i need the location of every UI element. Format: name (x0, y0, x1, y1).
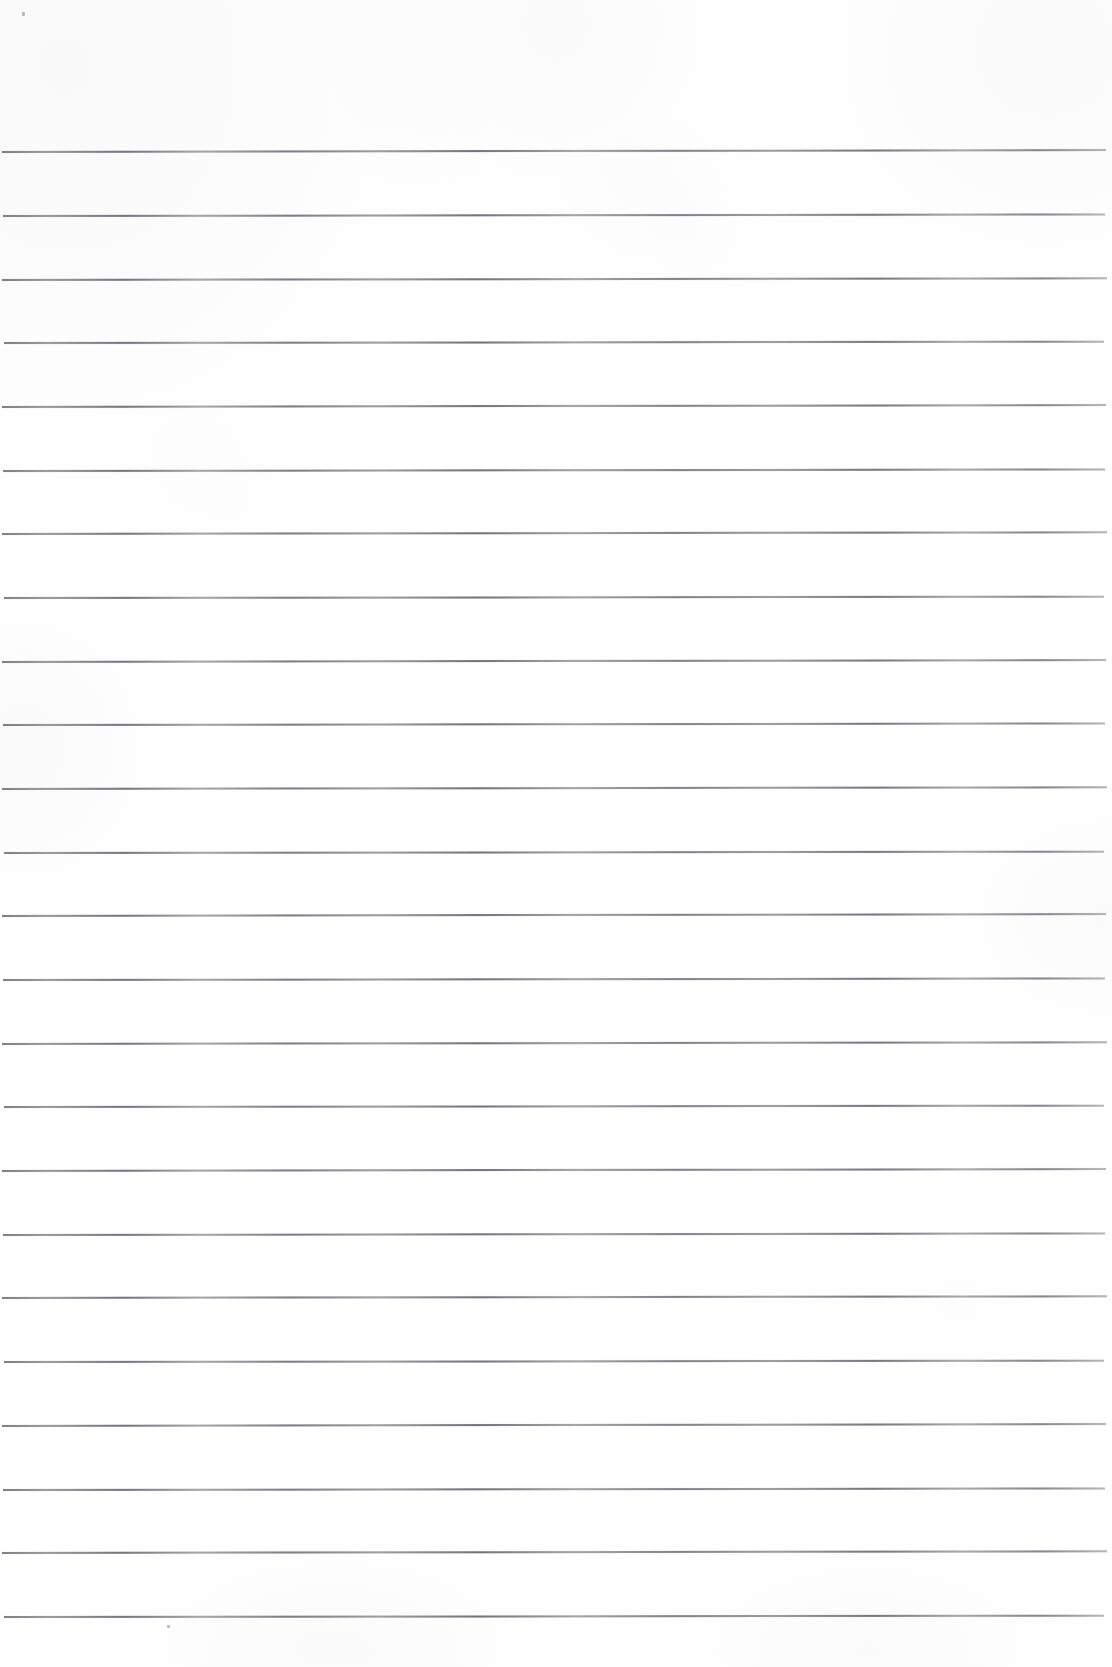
rule-line-ink (4, 1360, 1104, 1363)
rule-line-ink (2, 913, 1106, 917)
rule-line (2, 1168, 1106, 1172)
rule-line (3, 213, 1105, 217)
rule-line-blur (2, 1549, 1107, 1555)
rule-line (3, 1232, 1105, 1236)
rule-line-ink (2, 277, 1107, 281)
rule-line-ink (4, 1105, 1104, 1108)
rule-line-ink (2, 1550, 1107, 1554)
rule-line-ink (2, 149, 1106, 153)
rule-line (3, 722, 1105, 726)
rule-line (2, 786, 1107, 790)
rule-line-ink (3, 1232, 1105, 1236)
rule-line-blur (2, 403, 1106, 409)
rule-line-blur (2, 912, 1106, 918)
scanned-page (0, 0, 1112, 1667)
rule-line-blur (4, 595, 1104, 600)
rule-line-blur (4, 850, 1104, 855)
speck-bottom-mid (167, 1625, 170, 1628)
rule-line-blur (3, 721, 1105, 727)
speck-top-left (22, 12, 25, 16)
rule-line-ink (4, 596, 1104, 599)
rule-line (2, 1041, 1107, 1045)
rule-line-blur (4, 340, 1104, 345)
rule-line-blur (3, 212, 1105, 218)
rule-line-ink (2, 404, 1106, 408)
rule-line-blur (2, 1040, 1107, 1046)
rule-line-ink (2, 1423, 1106, 1427)
rule-line-blur (2, 148, 1106, 154)
rule-line (4, 1360, 1104, 1363)
rule-line-ink (3, 213, 1105, 217)
rule-line (2, 1295, 1107, 1299)
rule-line-ink (4, 341, 1104, 344)
rule-line (2, 531, 1107, 535)
paper-texture (0, 0, 1112, 1667)
rule-line-blur (2, 1167, 1106, 1173)
rule-line (3, 977, 1105, 981)
rule-line-blur (2, 530, 1107, 536)
rule-line-ink (3, 722, 1105, 726)
rule-line-ink (2, 531, 1107, 535)
rule-line-blur (2, 1294, 1107, 1300)
rule-line-ink (2, 659, 1106, 663)
rule-line-blur (2, 658, 1106, 664)
rule-line (4, 341, 1104, 344)
rule-line (2, 913, 1106, 917)
rule-line (4, 596, 1104, 599)
rule-line-blur (2, 785, 1107, 791)
rule-line-ink (3, 1487, 1105, 1491)
rule-line-blur (4, 1614, 1104, 1619)
rule-line-ink (4, 1615, 1104, 1618)
rule-line-blur (3, 1486, 1105, 1492)
rule-line (3, 468, 1105, 472)
rule-line (4, 851, 1104, 854)
rule-line (2, 404, 1106, 408)
rule-line (3, 1487, 1105, 1491)
rule-line-blur (2, 1422, 1106, 1428)
rule-line-ink (2, 786, 1107, 790)
rule-line-blur (3, 976, 1105, 982)
rule-line-ink (3, 468, 1105, 472)
rule-line (2, 149, 1106, 153)
rule-line-blur (4, 1104, 1104, 1109)
rule-line-blur (3, 1231, 1105, 1237)
rule-line-ink (2, 1168, 1106, 1172)
rule-line (4, 1105, 1104, 1108)
rule-line-ink (2, 1295, 1107, 1299)
rule-line-ink (3, 977, 1105, 981)
rule-line-ink (2, 1041, 1107, 1045)
rule-line (2, 659, 1106, 663)
rule-line-blur (4, 1359, 1104, 1364)
rule-line-blur (3, 467, 1105, 473)
rule-line (2, 1423, 1106, 1427)
rule-line (2, 277, 1107, 281)
rule-line (2, 1550, 1107, 1554)
rule-line (4, 1615, 1104, 1618)
rule-line-ink (4, 851, 1104, 854)
rule-line-blur (2, 276, 1107, 282)
